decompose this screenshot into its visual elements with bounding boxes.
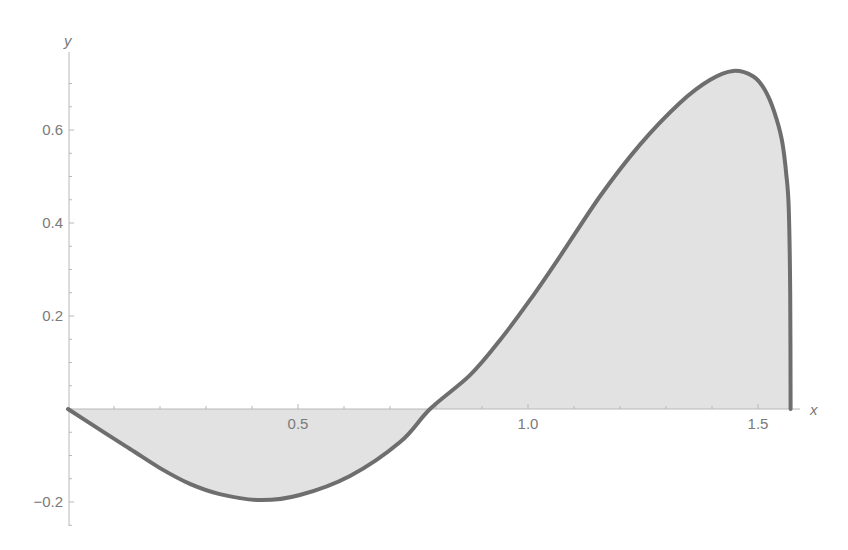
x-tick-label: 1.5 [748, 415, 769, 432]
area-fill [68, 71, 791, 500]
x-tick-label: 0.5 [288, 415, 309, 432]
chart: 0.51.01.5 −0.20.20.40.6 x y [0, 0, 848, 550]
y-tick-label: 0.6 [42, 121, 63, 138]
x-tick-label: 1.0 [518, 415, 539, 432]
y-axis-label: y [63, 32, 73, 49]
y-tick-label: 0.4 [42, 214, 63, 231]
x-axis-label: x [809, 401, 818, 418]
y-tick-label: 0.2 [42, 307, 63, 324]
y-ticks: −0.20.20.40.6 [33, 84, 74, 526]
y-tick-label: −0.2 [33, 493, 63, 510]
